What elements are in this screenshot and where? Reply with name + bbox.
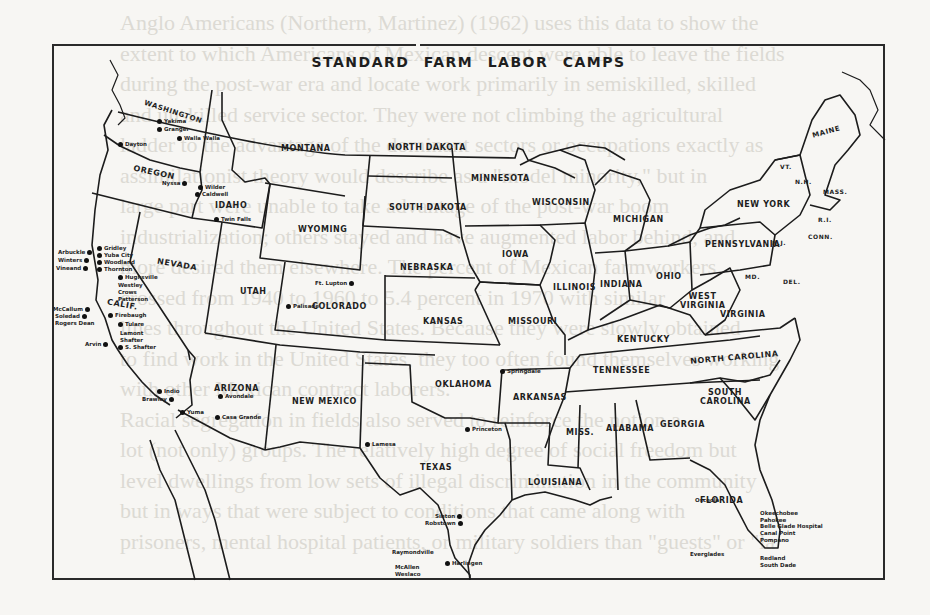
camp-label: Winters bbox=[58, 257, 82, 263]
camp-robstown: Robstown bbox=[425, 520, 463, 526]
camp-hughsville: Hughsville bbox=[118, 274, 158, 280]
camp-label: Osceola bbox=[695, 497, 719, 503]
camp-dot bbox=[500, 369, 505, 374]
camp-belle-glade-hospital: Belle Glade Hospital bbox=[760, 523, 823, 529]
camp-shafter: Shafter bbox=[120, 337, 143, 343]
mt-wy-border bbox=[265, 183, 345, 196]
state-label-iowa: IOWA bbox=[502, 250, 529, 259]
state-label-kansas: KANSAS bbox=[423, 317, 463, 326]
camp-osceola: Osceola bbox=[695, 497, 719, 503]
camp-label: Caldwell bbox=[202, 191, 228, 197]
camp-casa-grande: Casa Grande bbox=[215, 414, 261, 420]
nm-south-border bbox=[265, 442, 360, 450]
camp-dot bbox=[465, 427, 470, 432]
camp-label: Weslaco bbox=[395, 571, 421, 577]
state-label-pennsylvania: PENNSYLVANIA bbox=[705, 240, 780, 249]
nv-ut-border bbox=[205, 222, 222, 333]
camp-dot bbox=[157, 119, 162, 124]
camp-label: Arvin bbox=[85, 341, 101, 347]
camp-dot bbox=[84, 258, 89, 263]
camp-label: Arbuckle bbox=[58, 249, 85, 255]
camp-avondale: Avondale bbox=[218, 393, 254, 399]
camp-label: Shafter bbox=[120, 337, 143, 343]
state-label-virginia: VIRGINIA bbox=[720, 310, 766, 319]
camp-s-shafter: S. Shafter bbox=[118, 344, 156, 350]
camp-dot bbox=[215, 415, 220, 420]
camp-label: Brawley bbox=[142, 396, 167, 402]
state-label-nh: N.H. bbox=[795, 178, 812, 185]
state-label-louisiana: LOUISIANA bbox=[528, 478, 582, 487]
camp-arvin: Arvin bbox=[85, 341, 108, 347]
camp-south-dade: South Dade bbox=[760, 562, 796, 568]
state-label-conn: CONN. bbox=[808, 233, 833, 240]
camp-ft-lupton: Ft. Lupton bbox=[315, 280, 354, 286]
camp-yakima: Yakima bbox=[157, 118, 186, 124]
state-label-nj: N.J. bbox=[772, 239, 786, 246]
ms-al-border bbox=[578, 400, 690, 490]
state-label-new-york: NEW YORK bbox=[737, 200, 790, 209]
camp-label: S. Shafter bbox=[125, 344, 156, 350]
camp-label: Patterson bbox=[118, 296, 148, 302]
camp-label: Yakima bbox=[164, 118, 186, 124]
state-label-wyoming: WYOMING bbox=[298, 225, 348, 234]
camp-label: Robstown bbox=[425, 520, 456, 526]
camp-caldwell: Caldwell bbox=[195, 191, 228, 197]
camp-label: Avondale bbox=[225, 393, 254, 399]
camp-canal-point: Canal Point bbox=[760, 530, 795, 536]
state-label-south-dakota: SOUTH DAKOTA bbox=[389, 203, 467, 212]
camp-label: Rogers Dean bbox=[55, 320, 95, 326]
camp-label: Nyssa bbox=[162, 180, 180, 186]
ne-ks-border bbox=[385, 276, 475, 278]
camp-yuba-city: Yuba City bbox=[97, 252, 133, 258]
camp-dot bbox=[169, 397, 174, 402]
state-label-miss: MISS. bbox=[566, 428, 594, 437]
camp-vineand: Vineand bbox=[56, 265, 88, 271]
camp-brawley: Brawley bbox=[142, 396, 174, 402]
camp-label: Yuba City bbox=[104, 252, 133, 258]
state-label-missouri: MISSOURI bbox=[508, 317, 557, 326]
camp-dot bbox=[177, 136, 182, 141]
state-label-texas: TEXAS bbox=[420, 463, 452, 472]
state-label-georgia: GEORGIA bbox=[660, 420, 705, 429]
state-label-west-virginia: WEST VIRGINIA bbox=[680, 292, 725, 310]
camp-label: Pompano bbox=[760, 537, 789, 543]
camp-label: Casa Grande bbox=[222, 414, 261, 420]
camp-dot bbox=[214, 217, 219, 222]
puget-sound bbox=[110, 60, 125, 125]
camp-label: Granger bbox=[164, 126, 189, 132]
camp-soledad: Soledad bbox=[55, 313, 87, 319]
camp-label: Lamesa bbox=[372, 441, 396, 447]
state-label-tennessee: TENNESSEE bbox=[593, 366, 650, 375]
camp-granger: Granger bbox=[157, 126, 189, 132]
state-label-arizona: ARIZONA bbox=[214, 384, 259, 393]
mexico-baja bbox=[150, 430, 230, 580]
camp-dot bbox=[198, 185, 203, 190]
state-label-arkansas: ARKANSAS bbox=[513, 393, 567, 402]
ok-border bbox=[365, 363, 502, 423]
camp-label: Indio bbox=[164, 388, 180, 394]
state-label-new-mexico: NEW MEXICO bbox=[292, 397, 357, 406]
camp-princeton: Princeton bbox=[465, 426, 502, 432]
camp-dot bbox=[457, 514, 462, 519]
state-label-ohio: OHIO bbox=[656, 272, 682, 281]
camp-label: Belle Glade Hospital bbox=[760, 523, 823, 529]
camp-label: McCallum bbox=[53, 306, 83, 312]
camp-dot bbox=[118, 322, 123, 327]
camp-dot bbox=[118, 142, 123, 147]
nd-sd-border bbox=[368, 176, 452, 178]
nm-tx-border bbox=[360, 355, 363, 448]
camp-twin-falls: Twin Falls bbox=[214, 216, 251, 222]
or-south-border bbox=[92, 193, 222, 222]
camp-westley: Westley bbox=[118, 282, 143, 288]
ut-az-border bbox=[205, 333, 435, 355]
camp-walla-walla: Walla Walla bbox=[177, 135, 220, 141]
colorado-border bbox=[275, 262, 385, 340]
camp-yuma: Yuma bbox=[180, 409, 204, 415]
state-label-illinois: ILLINOIS bbox=[553, 283, 596, 292]
camp-mccallum: McCallum bbox=[53, 306, 90, 312]
camp-dot bbox=[108, 313, 113, 318]
state-label-nebraska: NEBRASKA bbox=[400, 263, 454, 272]
mn-west bbox=[452, 148, 480, 290]
ar-border bbox=[502, 368, 570, 448]
camp-woodland: Woodland bbox=[97, 259, 135, 265]
